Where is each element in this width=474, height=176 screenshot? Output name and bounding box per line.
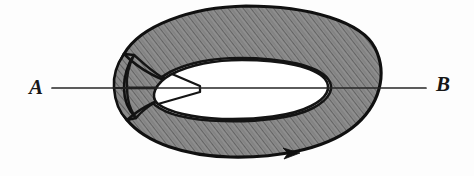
point-label-a: A [29, 77, 43, 98]
mobius-strip-figure: A B [0, 0, 474, 176]
point-label-b: B [436, 74, 450, 95]
mobius-strip-drawing [0, 0, 474, 176]
